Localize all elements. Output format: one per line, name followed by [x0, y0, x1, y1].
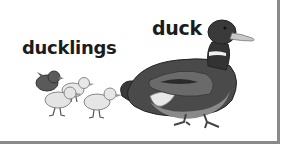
picture-card: ducklings duck — [0, 0, 280, 144]
dark-duckling-icon — [36, 71, 64, 91]
mallard-duck-icon — [121, 20, 254, 128]
duck-family-illustration — [0, 0, 277, 141]
duckling-icon — [84, 88, 122, 118]
